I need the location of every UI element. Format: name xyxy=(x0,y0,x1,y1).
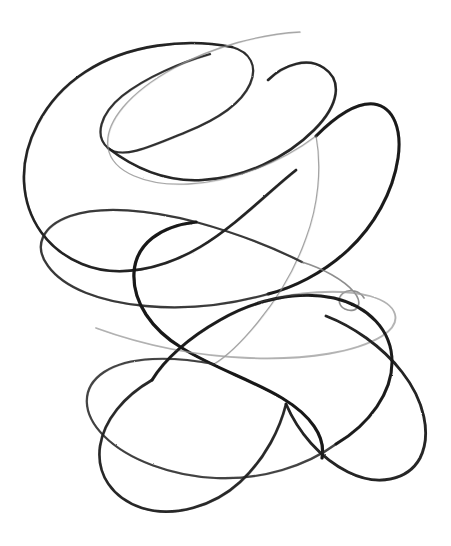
line-drawing-svg xyxy=(0,0,451,546)
paper-background xyxy=(0,0,451,546)
artwork-canvas: Abstract Continuous Line Drawing graphit… xyxy=(0,0,451,546)
